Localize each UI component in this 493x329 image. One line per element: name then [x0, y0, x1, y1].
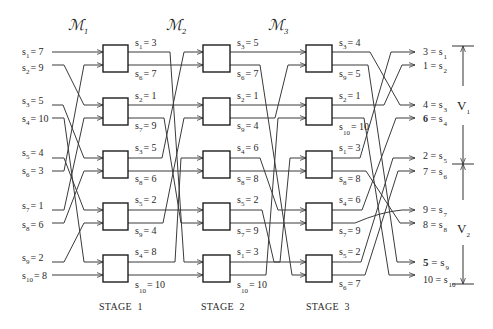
- input-label: s5= 4: [22, 147, 44, 161]
- output-label-top: s3= 5: [237, 37, 259, 51]
- input-labels: s1= 7 s2= 9 s3= 5 s4= 10 s5= 4 s6= 3 s7=…: [22, 46, 49, 284]
- comparator-box: [103, 255, 128, 282]
- output-label-top: s1= 3: [339, 142, 361, 156]
- group-label-v2: V2: [457, 221, 470, 239]
- final-output-label: 1 = s2: [423, 60, 448, 75]
- final-output-label: 4 = s3: [423, 99, 448, 114]
- output-label-top: s3= 4: [339, 37, 361, 51]
- output-label-bottom: s7= 9: [237, 225, 259, 239]
- comparator-box: [203, 98, 230, 125]
- stage-label-2: STAGE 2: [201, 301, 245, 312]
- output-label-bottom: s6= 7: [237, 68, 259, 82]
- output-label-top: s3= 5: [135, 142, 157, 156]
- output-label-bottom: s6= 7: [135, 68, 157, 82]
- output-label-bottom: s9= 4: [237, 120, 259, 134]
- input-label: s2= 9: [22, 62, 44, 76]
- final-output-label: 6 = s4: [423, 113, 448, 128]
- output-label-bottom: s7= 9: [339, 225, 361, 239]
- output-label-top: s1= 3: [237, 246, 259, 260]
- comparator-box: [103, 151, 128, 178]
- output-label-top: s5= 2: [339, 246, 361, 260]
- output-label-top: s5= 2: [135, 194, 157, 208]
- sorting-network-diagram: ℳ1 ℳ2 ℳ3 s1= 7 s2= 9 s3= 5 s4= 10 s5= 4 …: [0, 0, 493, 329]
- comparator-box: [306, 151, 332, 178]
- wiring-m1: [52, 52, 103, 275]
- output-label-bottom: s8= 8: [339, 173, 361, 187]
- final-output-label: 10 = s10: [423, 274, 456, 289]
- group-brackets: V1 V2: [452, 46, 474, 284]
- input-label: s6= 3: [22, 165, 44, 179]
- stage-1-labels: s1= 3 s6= 7 s2= 1 s7= 9 s3= 5 s8= 6 s5= …: [135, 37, 165, 295]
- output-label-bottom: s10= 10: [135, 279, 165, 295]
- input-label: s3= 5: [22, 95, 44, 109]
- output-label-bottom: s9= 5: [339, 68, 361, 82]
- wiring-m2: [128, 52, 203, 275]
- final-output-labels: 3 = s1 1 = s2 4 = s3 6 = s4 2 = s5 7 = s…: [423, 46, 456, 289]
- comparator-box: [306, 255, 332, 282]
- output-label-top: s2= 1: [135, 90, 157, 104]
- comparator-box: [203, 255, 230, 282]
- input-label: s1= 7: [22, 46, 44, 60]
- module-title-m2: ℳ2: [166, 16, 187, 36]
- final-output-label: 3 = s1: [423, 46, 448, 61]
- comparator-box: [103, 98, 128, 125]
- comparator-box: [306, 98, 332, 125]
- output-label-top: s4= 6: [237, 142, 259, 156]
- output-label-bottom: s10= 10: [339, 121, 369, 137]
- final-output-label: 8 = s8: [423, 219, 448, 234]
- stage-label-1: STAGE 1: [99, 301, 143, 312]
- input-label: s8= 6: [22, 219, 44, 233]
- comparator-box: [203, 203, 230, 230]
- output-label-top: s4= 8: [135, 246, 157, 260]
- output-label-top: s4= 6: [339, 194, 361, 208]
- output-label-bottom: s10= 10: [237, 279, 267, 295]
- final-output-label: 5 = s9: [423, 256, 449, 272]
- comparator-box: [103, 203, 128, 230]
- output-label-bottom: s9= 4: [135, 225, 157, 239]
- output-label-top: s5= 2: [237, 194, 259, 208]
- stage-3-labels: s3= 4 s9= 5 s2= 1 s10= 10 s1= 3 s8= 8 s4…: [339, 37, 369, 292]
- final-output-label: 7 = s6: [423, 166, 448, 181]
- stage-1: [103, 45, 128, 282]
- group-label-v1: V1: [457, 98, 470, 116]
- output-label-bottom: s8= 8: [237, 173, 259, 187]
- input-label: s4= 10: [22, 113, 49, 127]
- input-label: s10= 8: [22, 270, 47, 284]
- wiring-m3: [230, 52, 306, 275]
- stage-3: [306, 45, 332, 282]
- stage-label-3: STAGE 3: [306, 301, 350, 312]
- final-output-label: 2 = s5: [423, 150, 448, 165]
- module-title-m1: ℳ1: [68, 16, 88, 36]
- final-output-label: 9 = s7: [423, 204, 448, 219]
- input-label: s7= 1: [22, 200, 44, 214]
- module-title-m3: ℳ3: [268, 16, 289, 36]
- output-label-top: s2= 1: [237, 90, 259, 104]
- comparator-box: [306, 45, 332, 72]
- comparator-box: [306, 203, 332, 230]
- output-label-bottom: s6= 7: [339, 278, 361, 292]
- comparator-box: [103, 45, 128, 72]
- output-label-bottom: s7= 9: [135, 120, 157, 134]
- output-label-top: s2= 1: [339, 90, 361, 104]
- output-label-top: s1= 3: [135, 37, 157, 51]
- output-label-bottom: s8= 6: [135, 173, 157, 187]
- wiring-output: [332, 52, 415, 275]
- comparator-box: [203, 151, 230, 178]
- stage-2: [203, 45, 230, 282]
- input-label: s9= 2: [22, 252, 44, 266]
- comparator-box: [203, 45, 230, 72]
